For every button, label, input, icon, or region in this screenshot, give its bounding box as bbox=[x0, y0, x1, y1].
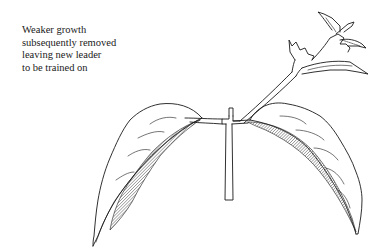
main-stem bbox=[222, 108, 240, 200]
left-leaf-underside bbox=[110, 120, 200, 230]
left-petiole bbox=[185, 118, 222, 119]
left-leaf bbox=[93, 104, 202, 246]
leader-shoot bbox=[240, 12, 368, 123]
right-leaf bbox=[248, 103, 362, 234]
plant-drawing bbox=[0, 0, 389, 252]
